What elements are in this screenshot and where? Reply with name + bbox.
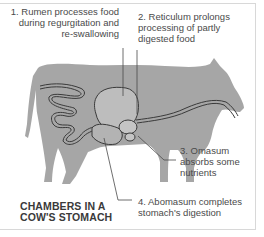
label-reticulum-line1: 2. Reticulum prolongs [138, 11, 253, 22]
label-reticulum-line3: digested food [138, 33, 253, 44]
label-rumen-line3: re-swallowing [6, 28, 119, 39]
omasum [119, 120, 137, 134]
label-rumen: 1. Rumen processes food during regurgita… [6, 6, 119, 39]
label-omasum-line2: absorbs some [180, 156, 250, 167]
label-rumen-line1: 1. Rumen processes food [6, 6, 119, 17]
label-omasum: 3. Omasum absorbs some nutrients [180, 145, 250, 178]
label-abomasum-line1: 4. Abomasum completes [138, 196, 256, 207]
label-reticulum-line2: processing of partly [138, 22, 253, 33]
diagram-title: CHAMBERS IN A COW'S STOMACH [20, 201, 112, 223]
label-reticulum: 2. Reticulum prolongs processing of part… [138, 11, 253, 44]
label-rumen-line2: during regurgitation and [6, 17, 119, 28]
reticulum [125, 133, 135, 141]
label-omasum-line3: nutrients [180, 167, 250, 178]
label-abomasum: 4. Abomasum completes stomach's digestio… [138, 196, 256, 218]
title-line2: COW'S STOMACH [20, 212, 112, 223]
label-omasum-line1: 3. Omasum [180, 145, 250, 156]
label-abomasum-line2: stomach's digestion [138, 207, 256, 218]
